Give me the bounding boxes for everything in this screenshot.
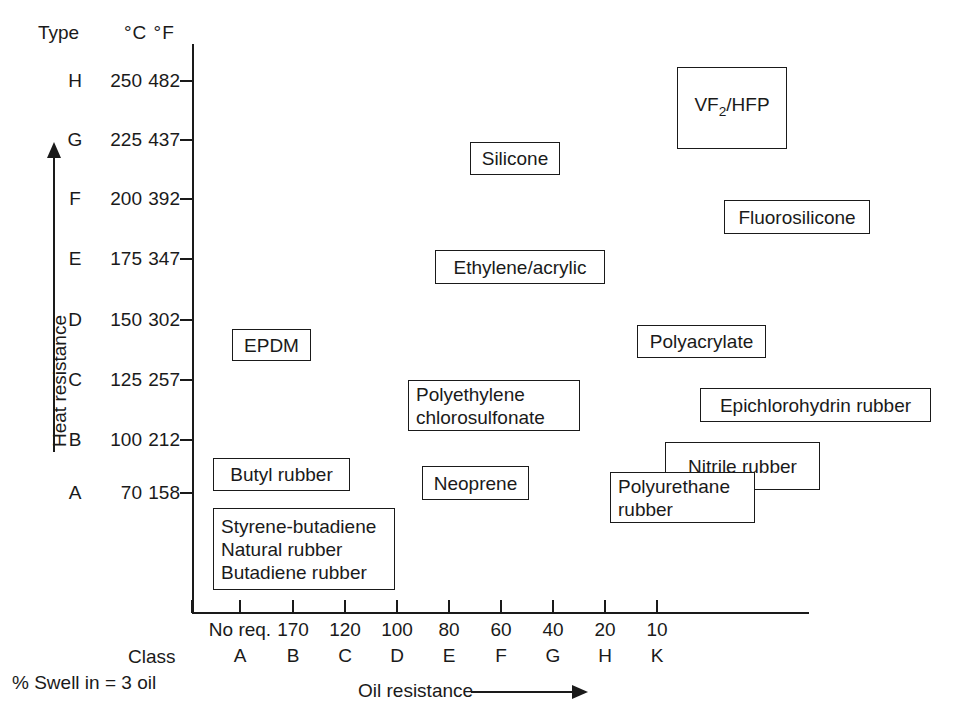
y-axis-type-label: B xyxy=(62,430,88,449)
swell-note-label: % Swell in = 3 oil xyxy=(12,672,156,694)
y-axis-line xyxy=(192,44,194,614)
material-box-label: Polyurethane xyxy=(618,475,730,498)
y-axis-fahrenheit-label: 257 xyxy=(146,370,180,389)
y-axis-celsius-label: 70 xyxy=(96,483,142,502)
material-box: Ethylene/acrylic xyxy=(435,250,605,284)
y-axis-fahrenheit-label: 392 xyxy=(146,189,180,208)
y-axis-type-label: C xyxy=(62,370,88,389)
x-axis-class-label: D xyxy=(367,646,427,666)
oil-resistance-arrow-head xyxy=(572,685,588,699)
x-axis-tick xyxy=(552,600,554,613)
x-axis-tick xyxy=(656,600,658,613)
material-box-label: VF2/HFP xyxy=(694,93,769,123)
y-axis-tick xyxy=(180,319,193,321)
material-box: Polyurethanerubber xyxy=(610,472,755,523)
y-axis-fahrenheit-label: 302 xyxy=(146,310,180,329)
material-box: VF2/HFP xyxy=(677,67,787,149)
class-row-label: Class xyxy=(128,646,176,668)
x-axis-value-label: 10 xyxy=(617,620,697,640)
x-axis-tick xyxy=(604,600,606,613)
material-box-label: Epichlorohydrin rubber xyxy=(720,394,911,417)
material-box-label: EPDM xyxy=(244,334,299,357)
y-axis-tick xyxy=(180,80,193,82)
material-box-label: Silicone xyxy=(482,147,549,170)
type-column-header: Type xyxy=(38,22,79,44)
x-axis-title: Oil resistance xyxy=(358,680,473,702)
material-box: EPDM xyxy=(232,329,311,361)
heat-resistance-arrow-head xyxy=(47,142,61,158)
x-axis-tick xyxy=(500,600,502,613)
x-axis-tick xyxy=(191,600,193,613)
material-box-label: Butyl rubber xyxy=(230,463,332,486)
material-box-label: Butadiene rubber xyxy=(221,561,367,584)
y-axis-fahrenheit-label: 482 xyxy=(146,71,180,90)
y-axis-type-label: D xyxy=(62,310,88,329)
material-box-label: Polyacrylate xyxy=(650,330,754,353)
y-axis-type-label: H xyxy=(62,71,88,90)
x-axis-tick xyxy=(239,600,241,613)
y-axis-celsius-label: 100 xyxy=(96,430,142,449)
y-axis-type-label: G xyxy=(62,130,88,149)
material-box-label: Ethylene/acrylic xyxy=(453,256,586,279)
material-box-label: Fluorosilicone xyxy=(738,206,855,229)
y-axis-type-label: E xyxy=(62,249,88,268)
material-box: Polyethylenechlorosulfonate xyxy=(408,380,580,431)
y-axis-type-label: A xyxy=(62,483,88,502)
y-axis-celsius-label: 250 xyxy=(96,71,142,90)
material-box-label: Natural rubber xyxy=(221,538,342,561)
material-box-label: chlorosulfonate xyxy=(416,406,545,429)
y-axis-fahrenheit-label: 212 xyxy=(146,430,180,449)
material-box-label: rubber xyxy=(618,498,673,521)
x-axis-class-label: C xyxy=(315,646,375,666)
x-axis-tick xyxy=(396,600,398,613)
y-axis-type-label: F xyxy=(62,189,88,208)
y-axis-celsius-label: 175 xyxy=(96,249,142,268)
y-axis-fahrenheit-label: 158 xyxy=(146,483,180,502)
y-axis-tick xyxy=(180,198,193,200)
y-axis-celsius-label: 125 xyxy=(96,370,142,389)
material-box: Butyl rubber xyxy=(213,458,350,491)
y-axis-tick xyxy=(180,139,193,141)
material-box: Silicone xyxy=(470,142,560,175)
x-axis-class-label: F xyxy=(471,646,531,666)
x-axis-tick xyxy=(448,600,450,613)
x-axis-class-label: E xyxy=(419,646,479,666)
material-box: Fluorosilicone xyxy=(724,200,870,234)
y-axis-tick xyxy=(180,492,193,494)
x-axis-tick xyxy=(292,600,294,613)
y-axis-tick xyxy=(180,379,193,381)
y-axis-tick xyxy=(180,258,193,260)
material-box: Epichlorohydrin rubber xyxy=(700,388,931,422)
oil-resistance-arrow-shaft xyxy=(471,691,574,693)
material-box-label: Styrene-butadiene xyxy=(221,515,376,538)
units-column-header: °C °F xyxy=(124,22,175,44)
x-axis-class-label: G xyxy=(523,646,583,666)
x-axis-class-label: A xyxy=(210,646,270,666)
x-axis-class-label: K xyxy=(627,646,687,666)
x-axis-class-label: B xyxy=(263,646,323,666)
y-axis-tick xyxy=(180,439,193,441)
x-axis-tick xyxy=(344,600,346,613)
material-box: Neoprene xyxy=(422,466,529,500)
chart-figure: Type °C °F Heat resistance H250482G22543… xyxy=(0,0,957,725)
y-axis-fahrenheit-label: 437 xyxy=(146,130,180,149)
y-axis-celsius-label: 150 xyxy=(96,310,142,329)
x-axis-class-label: H xyxy=(575,646,635,666)
y-axis-fahrenheit-label: 347 xyxy=(146,249,180,268)
y-axis-celsius-label: 225 xyxy=(96,130,142,149)
material-box-label: Polyethylene xyxy=(416,383,525,406)
y-axis-celsius-label: 200 xyxy=(96,189,142,208)
material-box-label: Neoprene xyxy=(434,472,517,495)
material-box: Polyacrylate xyxy=(637,325,766,358)
material-box: Styrene-butadieneNatural rubberButadiene… xyxy=(213,508,395,590)
